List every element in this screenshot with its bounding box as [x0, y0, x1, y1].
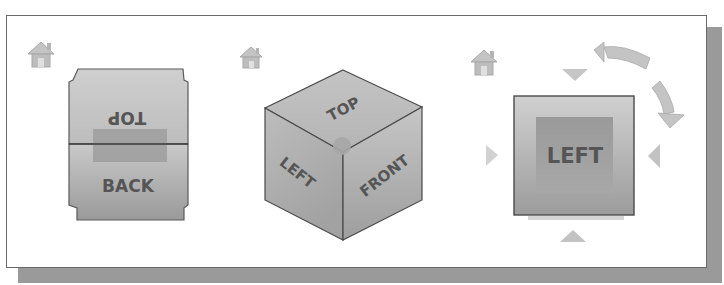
face-highlight	[93, 129, 167, 162]
rotate-ccw-icon[interactable]	[594, 42, 650, 69]
arrow-up-icon[interactable]	[560, 230, 586, 242]
panel-cube-face-left: LEFT	[471, 42, 684, 242]
face-label-back: BACK	[102, 176, 155, 196]
arrow-left-icon[interactable]	[648, 144, 660, 168]
viewcube-back[interactable]: TOP BACK	[69, 69, 188, 220]
arrow-down-icon[interactable]	[562, 69, 588, 81]
home-icon[interactable]	[28, 42, 54, 67]
corner-highlight	[333, 137, 351, 155]
panel-cube-isometric: TOP LEFT FRONT	[240, 47, 422, 240]
panel-cube-back-top: TOP BACK	[28, 42, 188, 220]
face-label-left: LEFT	[547, 144, 604, 168]
home-icon[interactable]	[240, 47, 262, 68]
arrow-right-icon[interactable]	[486, 145, 498, 166]
face-label-top: TOP	[108, 108, 147, 128]
viewcube-isometric[interactable]: TOP LEFT FRONT	[265, 70, 422, 240]
rotate-cw-icon[interactable]	[652, 81, 684, 128]
viewcube-face-left[interactable]: LEFT	[514, 96, 634, 220]
home-icon[interactable]	[471, 50, 497, 75]
